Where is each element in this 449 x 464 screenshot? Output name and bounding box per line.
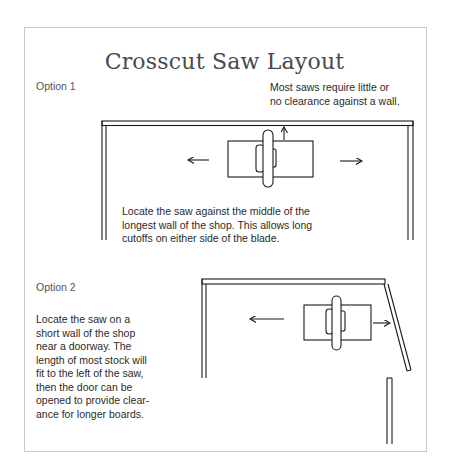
option-1-saw-icon [228,130,313,187]
option-2-saw-icon [304,296,371,350]
option-1-walls [102,121,413,240]
layout-drawings [0,0,449,464]
option-2-walls [202,279,411,444]
